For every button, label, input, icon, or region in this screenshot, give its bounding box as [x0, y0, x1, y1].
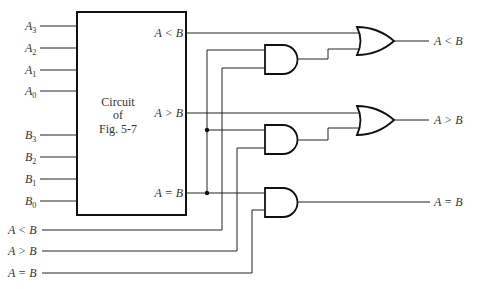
block-output-lt-label: A < B	[153, 26, 183, 40]
wire-eq-bus	[207, 50, 265, 193]
wire-and1-out	[297, 49, 361, 59]
svg-text:B3: B3	[25, 128, 36, 144]
wire-and2-out	[297, 128, 361, 140]
svg-text:B0: B0	[25, 194, 36, 210]
input-b0: B0	[25, 194, 77, 210]
input-a2: A2	[24, 41, 77, 57]
input-b1: B1	[25, 172, 77, 188]
svg-text:A3: A3	[24, 19, 36, 35]
and-gate-2	[265, 125, 298, 154]
cascade-comparator-diagram: Circuit of Fig. 5-7 A < B A > B A = B A3…	[0, 0, 477, 289]
input-b2: B2	[25, 150, 77, 166]
svg-text:A0: A0	[24, 84, 36, 100]
wire-cascade-eq	[42, 210, 265, 273]
block-title-line1: Circuit	[101, 95, 135, 109]
cascade-input-eq-label: A = B	[7, 266, 37, 280]
svg-text:A2: A2	[24, 41, 36, 57]
junction-dot-2	[205, 191, 209, 195]
output-gt-label: A > B	[433, 113, 463, 127]
input-a1: A1	[24, 63, 77, 79]
svg-text:A1: A1	[24, 63, 36, 79]
or-gate-2	[357, 106, 394, 135]
svg-text:B1: B1	[25, 172, 36, 188]
block-title-line3: Fig. 5-7	[99, 122, 137, 136]
cascade-input-lt-label: A < B	[7, 223, 37, 237]
block-output-eq-label: A = B	[153, 186, 183, 200]
and-gate-3	[265, 188, 298, 217]
cascade-input-gt-label: A > B	[7, 244, 37, 258]
input-b3: B3	[25, 128, 77, 144]
input-a0: A0	[24, 84, 77, 100]
junction-dot-1	[205, 128, 209, 132]
output-lt-label: A < B	[433, 34, 463, 48]
block-output-gt-label: A > B	[153, 106, 183, 120]
svg-text:B2: B2	[25, 150, 36, 166]
or-gate-1	[357, 27, 394, 55]
output-eq-label: A = B	[433, 195, 463, 209]
and-gate-1	[265, 45, 298, 74]
input-a3: A3	[24, 19, 77, 35]
block-title-line2: of	[113, 108, 123, 122]
